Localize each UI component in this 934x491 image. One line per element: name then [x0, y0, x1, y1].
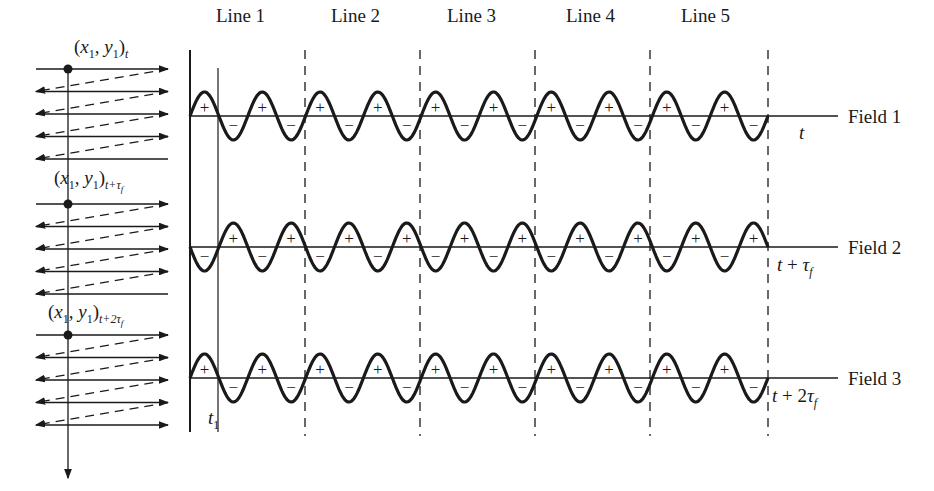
- plus-sign: +: [749, 230, 759, 247]
- time-tau-sub: f: [809, 265, 812, 279]
- minus-sign: −: [373, 248, 383, 265]
- waveform-field-2: [190, 223, 768, 271]
- minus-sign: −: [518, 117, 528, 134]
- plus-sign: +: [546, 99, 556, 116]
- plus-sign: +: [546, 361, 556, 378]
- plus-sign: +: [604, 99, 614, 116]
- field-label-2: Field 2: [848, 238, 901, 257]
- time-tau: τ: [807, 385, 814, 406]
- minus-sign: −: [575, 379, 585, 396]
- plus-sign: +: [229, 230, 239, 247]
- plus-sign: +: [720, 361, 730, 378]
- minus-sign: −: [286, 379, 296, 396]
- plus-sign: +: [518, 230, 528, 247]
- minus-sign: −: [633, 379, 643, 396]
- minus-sign: −: [460, 379, 470, 396]
- plus-sign: +: [373, 361, 383, 378]
- minus-sign: −: [604, 248, 614, 265]
- line-label-3: Line 3: [447, 6, 496, 25]
- scan-rasters: [36, 69, 168, 425]
- plus-sign: +: [315, 99, 325, 116]
- plus-sign: +: [402, 230, 412, 247]
- minus-sign: −: [344, 379, 354, 396]
- plus-sign: +: [200, 99, 210, 116]
- minus-sign: −: [633, 117, 643, 134]
- plus-sign: +: [286, 230, 296, 247]
- time-label-field-3: t + 2τf: [772, 386, 817, 405]
- minus-sign: −: [402, 117, 412, 134]
- time-op: +: [777, 385, 797, 406]
- scan-point-dot-3: [64, 331, 73, 340]
- scan-point-label-2: (x1, y1)t+τf: [54, 168, 123, 187]
- minus-sign: −: [749, 117, 759, 134]
- plus-sign: +: [633, 230, 643, 247]
- tau-subsub: f: [121, 318, 124, 328]
- x-var: x: [60, 167, 68, 188]
- tau-subsub: f: [121, 184, 124, 194]
- time-tau-sub: f: [814, 396, 817, 410]
- plus-sign: +: [373, 99, 383, 116]
- field-label-1: Field 1: [848, 107, 901, 126]
- minus-sign: −: [489, 248, 499, 265]
- minus-sign: −: [229, 117, 239, 134]
- time-coef: 2: [798, 385, 808, 406]
- plus-sign: +: [720, 99, 730, 116]
- y-var: y: [78, 301, 86, 322]
- scan-point-label-3: (x1, y1)t+2τf: [48, 302, 123, 321]
- waveform-field-1: [190, 92, 768, 140]
- t-sub: t: [125, 47, 128, 61]
- minus-sign: −: [691, 117, 701, 134]
- minus-sign: −: [518, 379, 528, 396]
- plus-sign: +: [662, 361, 672, 378]
- x-var: x: [80, 36, 88, 57]
- minus-sign: −: [229, 379, 239, 396]
- minus-sign: −: [749, 379, 759, 396]
- plus-sign: +: [315, 361, 325, 378]
- scan-raster-3: [36, 335, 168, 425]
- plus-sign: +: [200, 361, 210, 378]
- waveform-field-3: [190, 354, 768, 402]
- minus-sign: −: [402, 379, 412, 396]
- plus-sign: +: [489, 99, 499, 116]
- plus-sign: +: [431, 361, 441, 378]
- y-var: y: [104, 36, 112, 57]
- scan-raster-1: [36, 69, 168, 159]
- y-sub: 1: [87, 312, 93, 326]
- y-sub: 1: [113, 47, 119, 61]
- scan-point-label-1: (x1, y1)t: [74, 37, 128, 56]
- plus-sign: +: [604, 361, 614, 378]
- t1-label: t1: [208, 408, 219, 427]
- waveforms: [190, 92, 768, 402]
- minus-sign: −: [691, 379, 701, 396]
- plus-sign: +: [431, 99, 441, 116]
- minus-sign: −: [720, 248, 730, 265]
- scan-raster-2: [36, 204, 168, 294]
- plus-sign: +: [344, 230, 354, 247]
- minus-sign: −: [546, 248, 556, 265]
- line-label-1: Line 1: [216, 6, 265, 25]
- x-sub: 1: [63, 312, 69, 326]
- minus-sign: −: [575, 117, 585, 134]
- minus-sign: −: [257, 248, 267, 265]
- plus-sign: +: [489, 361, 499, 378]
- field-label-3: Field 3: [848, 369, 901, 388]
- line-label-2: Line 2: [331, 6, 380, 25]
- plus-sign: +: [460, 230, 470, 247]
- time-label-field-2: t + τf: [777, 255, 813, 274]
- t1-sub: 1: [213, 418, 219, 432]
- minus-sign: −: [662, 248, 672, 265]
- minus-sign: −: [286, 117, 296, 134]
- x-sub: 1: [69, 178, 75, 192]
- x-sub: 1: [89, 47, 95, 61]
- time-label-field-1: t: [799, 123, 804, 142]
- plus-sign: +: [575, 230, 585, 247]
- minus-sign: −: [431, 248, 441, 265]
- line-label-5: Line 5: [681, 6, 730, 25]
- y-var: y: [84, 167, 92, 188]
- minus-sign: −: [460, 117, 470, 134]
- line-label-4: Line 4: [566, 6, 615, 25]
- minus-sign: −: [200, 248, 210, 265]
- plus-sign: +: [257, 361, 267, 378]
- x-var: x: [54, 301, 62, 322]
- minus-sign: −: [344, 117, 354, 134]
